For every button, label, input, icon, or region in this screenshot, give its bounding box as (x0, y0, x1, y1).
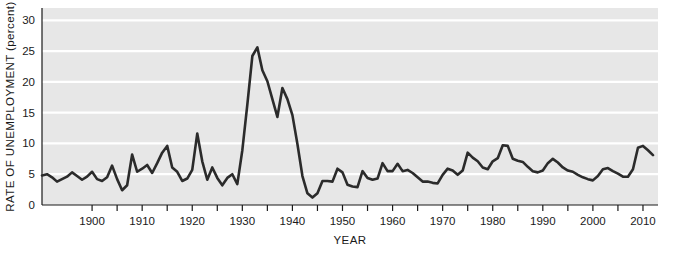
y-axis-tick-label: 30 (22, 14, 35, 26)
y-axis-tick-label: 25 (22, 45, 35, 57)
x-axis-tick-label: 1930 (230, 215, 256, 227)
x-axis-tick-label: 2010 (630, 215, 656, 227)
y-axis-tick-label: 20 (22, 76, 35, 88)
y-axis-tick-label: 5 (29, 168, 35, 180)
x-axis-tick-label: 1960 (380, 215, 406, 227)
x-axis-tick-label: 1990 (530, 215, 556, 227)
y-axis-tick-label: 0 (29, 199, 35, 211)
x-axis-tick-label: 1910 (129, 215, 155, 227)
plot-area-background (42, 8, 658, 205)
chart-canvas: 051015202530 190019101920193019401950196… (0, 0, 673, 253)
unemployment-rate-chart: 051015202530 190019101920193019401950196… (0, 0, 673, 253)
y-axis-tick-label: 15 (22, 107, 35, 119)
x-axis-tick-label: 1940 (280, 215, 306, 227)
x-axis-tick-label: 1920 (179, 215, 205, 227)
x-axis-tick-label: 1900 (79, 215, 105, 227)
y-axis-title: RATE OF UNEMPLOYMENT (percent) (4, 1, 16, 211)
x-axis-tick-label: 1950 (330, 215, 356, 227)
y-axis-tick-label: 10 (22, 137, 35, 149)
x-axis-tick-label: 2000 (580, 215, 606, 227)
x-axis-tick-label: 1970 (430, 215, 456, 227)
x-axis-title: YEAR (334, 234, 367, 246)
x-axis-tick-label: 1980 (480, 215, 506, 227)
